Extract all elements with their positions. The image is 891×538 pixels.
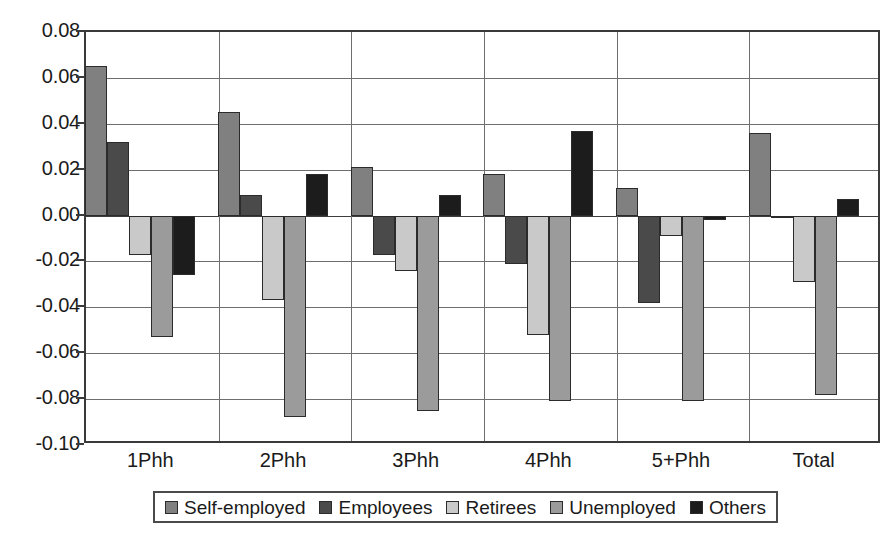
bar (439, 195, 461, 216)
bar (682, 216, 704, 402)
bar (749, 133, 771, 216)
gridline-vertical (484, 32, 485, 441)
x-tick-label: 2Phh (217, 447, 350, 473)
y-axis: 0.080.060.040.020.00-0.02-0.04-0.06-0.08… (0, 30, 80, 443)
y-tick-mark (76, 443, 84, 445)
y-tick-label: -0.04 (6, 295, 80, 315)
legend-item: Employees (319, 498, 432, 517)
gridline-vertical (351, 32, 352, 441)
bar (107, 142, 129, 215)
y-tick-label: -0.06 (6, 341, 80, 361)
legend-swatch-icon (319, 501, 332, 514)
legend-item: Others (690, 498, 766, 517)
bar (704, 216, 726, 221)
gridline-vertical (749, 32, 750, 441)
x-tick-label: Total (747, 447, 880, 473)
legend-label: Others (709, 498, 766, 517)
y-tick-label: -0.02 (6, 249, 80, 269)
bar (815, 216, 837, 395)
y-tick-label: 0.08 (6, 20, 80, 40)
bar (395, 216, 417, 271)
bar (616, 188, 638, 216)
y-tick-mark (76, 305, 84, 307)
bar (527, 216, 549, 335)
bar (571, 131, 593, 216)
y-tick-mark (76, 168, 84, 170)
x-tick-label: 1Phh (84, 447, 217, 473)
legend-swatch-icon (446, 501, 459, 514)
bar (771, 216, 793, 218)
bar (837, 199, 859, 215)
y-tick-label: 0.00 (6, 204, 80, 224)
bar (793, 216, 815, 283)
bar (173, 216, 195, 276)
gridline-vertical (219, 32, 220, 441)
y-tick-mark (76, 351, 84, 353)
y-tick-mark (76, 214, 84, 216)
plot-area (84, 30, 880, 443)
bar-chart: 0.080.060.040.020.00-0.02-0.04-0.06-0.08… (0, 0, 891, 538)
bar (129, 216, 151, 255)
bar (638, 216, 660, 303)
bar (218, 112, 240, 215)
y-tick-mark (76, 397, 84, 399)
gridline-horizontal (86, 261, 878, 262)
y-tick-mark (76, 76, 84, 78)
x-tick-label: 5+Phh (615, 447, 748, 473)
x-tick-label: 4Phh (482, 447, 615, 473)
y-tick-label: 0.04 (6, 112, 80, 132)
legend-swatch-icon (550, 501, 563, 514)
bar (373, 216, 395, 255)
y-tick-mark (76, 30, 84, 32)
y-tick-mark (76, 122, 84, 124)
legend-label: Self-employed (184, 498, 305, 517)
chart-legend: Self-employedEmployeesRetireesUnemployed… (153, 491, 778, 523)
y-tick-label: -0.10 (6, 433, 80, 453)
legend-item: Self-employed (165, 498, 305, 517)
bar (417, 216, 439, 411)
gridline-horizontal (86, 124, 878, 125)
y-tick-mark (76, 259, 84, 261)
bar (262, 216, 284, 301)
bar (505, 216, 527, 264)
bar (549, 216, 571, 402)
bar (351, 167, 373, 215)
gridline-vertical (617, 32, 618, 441)
legend-item: Retirees (446, 498, 536, 517)
bar (483, 174, 505, 215)
bar (306, 174, 328, 215)
legend-label: Employees (338, 498, 432, 517)
gridline-horizontal (86, 353, 878, 354)
x-tick-label: 3Phh (349, 447, 482, 473)
legend-label: Retirees (465, 498, 536, 517)
legend-swatch-icon (165, 501, 178, 514)
gridline-horizontal (86, 307, 878, 308)
y-tick-label: 0.06 (6, 66, 80, 86)
gridline-horizontal (86, 78, 878, 79)
gridline-horizontal (86, 216, 878, 217)
bar (284, 216, 306, 418)
bar (85, 66, 107, 215)
gridline-horizontal (86, 399, 878, 400)
y-tick-label: 0.02 (6, 158, 80, 178)
legend-item: Unemployed (550, 498, 676, 517)
legend-swatch-icon (690, 501, 703, 514)
legend-label: Unemployed (569, 498, 676, 517)
y-tick-label: -0.08 (6, 387, 80, 407)
bar (151, 216, 173, 338)
x-axis: 1Phh2Phh3Phh4Phh5+PhhTotal (84, 447, 880, 477)
bar (660, 216, 682, 237)
bar (240, 195, 262, 216)
